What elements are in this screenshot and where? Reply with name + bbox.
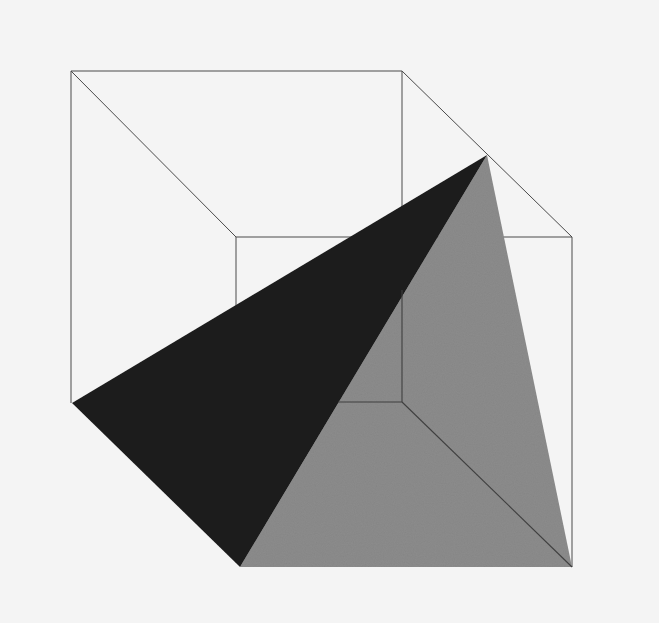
geometric-artwork <box>0 0 659 623</box>
top-left-connector <box>71 71 236 237</box>
tetrahedron <box>72 155 572 567</box>
